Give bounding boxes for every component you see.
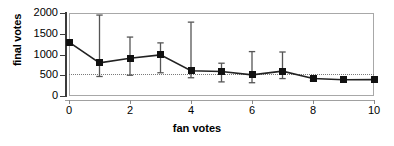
data-point-marker: [279, 68, 286, 75]
y-tick-mark: [60, 34, 65, 35]
x-axis-title: fan votes: [0, 122, 394, 134]
y-tick-mark: [60, 13, 65, 14]
x-tick-label: 0: [54, 104, 84, 116]
x-tick-label: 6: [237, 104, 267, 116]
x-tick-label: 4: [176, 104, 206, 116]
data-point-marker: [249, 71, 256, 78]
data-point-marker: [188, 67, 195, 74]
x-axis-line: [65, 100, 375, 101]
data-point-marker: [310, 75, 317, 82]
y-tick-label: 500: [18, 68, 58, 80]
y-tick-mark: [60, 75, 65, 76]
data-point-marker: [66, 39, 73, 46]
x-tick-label: 10: [359, 104, 389, 116]
x-tick-label: 8: [298, 104, 328, 116]
y-tick-label: 1500: [18, 27, 58, 39]
data-point-marker: [340, 76, 347, 83]
y-tick-label: 2000: [18, 6, 58, 18]
data-point-marker: [96, 59, 103, 66]
data-series-line: [69, 13, 374, 96]
y-axis-line: [65, 12, 67, 97]
y-tick-mark: [60, 55, 65, 56]
data-point-marker: [157, 51, 164, 58]
chart-container: final votes 0500100015002000 0246810 fan…: [0, 0, 394, 146]
y-tick-label: 1000: [18, 48, 58, 60]
data-point-marker: [127, 55, 134, 62]
plot-area: [69, 13, 374, 96]
data-point-marker: [371, 76, 378, 83]
y-tick-mark: [60, 96, 65, 97]
x-tick-label: 2: [115, 104, 145, 116]
y-tick-label: 0: [18, 89, 58, 101]
data-point-marker: [218, 68, 225, 75]
